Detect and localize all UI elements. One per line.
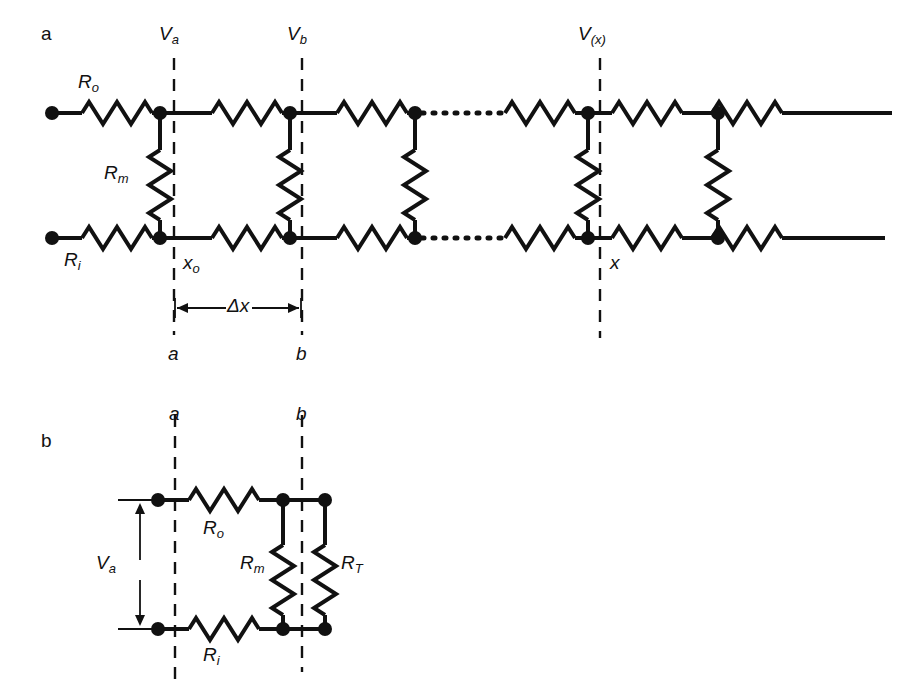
label-x-o: xo — [183, 253, 200, 275]
label-r-internal-a: Ri — [64, 250, 81, 272]
label-r-terminal-b: RT — [341, 553, 363, 575]
panel-b-rt-branch — [314, 500, 336, 629]
label-cut-a-panel-b: a — [169, 404, 180, 423]
panel-b-rm-branch — [272, 500, 294, 629]
label-r-outer-a: Ro — [78, 72, 99, 94]
label-cut-a-panel-a: a — [168, 344, 179, 363]
figure-circuit-diagram: a Ro Rm Ri Va Vb V(x) xo x Δx a b b a b … — [0, 0, 919, 697]
label-v-a: Va — [159, 24, 179, 46]
panel-a-nodes — [45, 106, 725, 245]
panel-b-va-dimension — [118, 500, 152, 629]
label-cut-b-panel-b: b — [296, 404, 307, 423]
panel-a-label: a — [41, 24, 52, 43]
circuit-svg — [0, 0, 919, 697]
label-v-a-panel-b: Va — [96, 553, 116, 575]
label-r-membrane-a: Rm — [104, 163, 129, 185]
label-delta-x: Δx — [227, 296, 249, 315]
label-x: x — [610, 253, 620, 272]
panel-b-top-rail — [158, 489, 325, 511]
label-r-membrane-b: Rm — [240, 553, 265, 575]
panel-a-membrane-branches — [149, 113, 729, 238]
panel-a-top-rail — [52, 102, 892, 124]
label-v-b: Vb — [287, 24, 307, 46]
label-r-outer-b: Ro — [203, 518, 224, 540]
label-cut-b-panel-a: b — [296, 344, 307, 363]
label-v-x: V(x) — [578, 24, 606, 46]
panel-b-label: b — [41, 431, 52, 450]
panel-b-bottom-rail — [158, 618, 325, 640]
label-r-internal-b: Ri — [203, 645, 220, 667]
